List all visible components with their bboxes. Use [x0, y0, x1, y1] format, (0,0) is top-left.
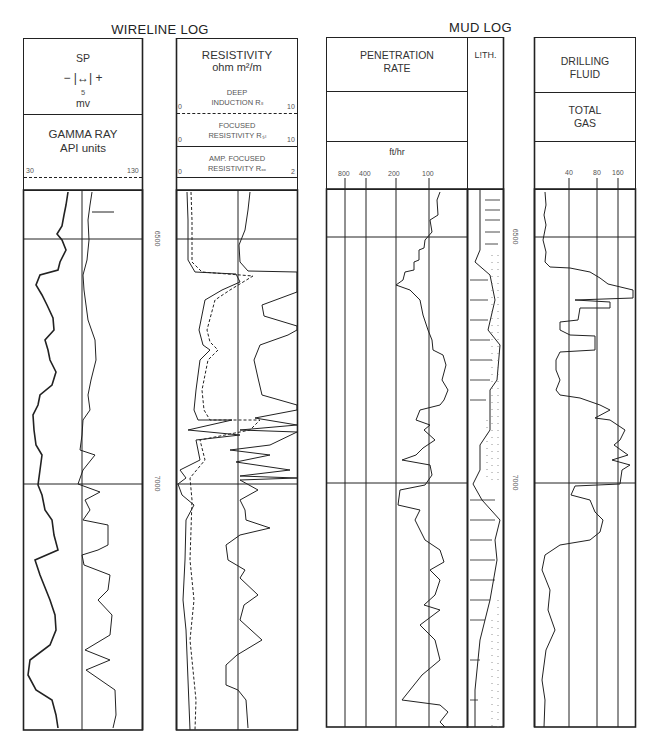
depth-label-7000-mudlog: 7000: [512, 475, 519, 491]
log-tracks: [0, 0, 659, 748]
depth-label-6500-mudlog: 6500: [512, 229, 519, 245]
depth-label-7000-wireline: 7000: [154, 476, 161, 492]
depth-label-6500-wireline: 6500: [154, 231, 161, 247]
